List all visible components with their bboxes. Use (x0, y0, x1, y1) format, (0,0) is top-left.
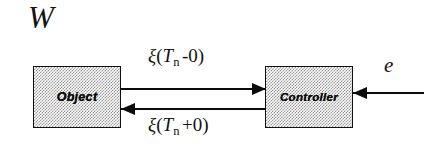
signal-label-feedback: ξ(Tn+0) (148, 115, 209, 137)
signal-feedback-close-paren: ) (202, 114, 208, 135)
arrowhead-left-icon (121, 103, 135, 115)
block-object: Object (33, 66, 121, 128)
signal-forward-variable: T (162, 45, 173, 66)
signal-forward-operator: -0 (182, 45, 198, 66)
wire-object-to-controller (121, 88, 266, 90)
arrowhead-right-icon (252, 83, 266, 95)
signal-forward-symbol: ξ (148, 45, 156, 66)
wire-controller-to-object (121, 108, 266, 110)
arrowhead-left-external-icon (353, 87, 367, 99)
system-label-w: W (28, 2, 54, 33)
block-controller-label: Controller (280, 91, 338, 103)
signal-label-external-input: e (384, 55, 393, 76)
block-controller: Controller (265, 66, 353, 128)
signal-label-forward: ξ(Tn-0) (148, 46, 204, 68)
block-object-label: Object (57, 90, 98, 104)
signal-feedback-subscript: n (173, 124, 179, 138)
signal-feedback-operator: +0 (182, 114, 202, 135)
signal-forward-close-paren: ) (198, 45, 204, 66)
signal-forward-subscript: n (173, 55, 179, 69)
signal-feedback-variable: T (162, 114, 173, 135)
signal-feedback-symbol: ξ (148, 114, 156, 135)
block-diagram-canvas: W Object Controller ξ(Tn-0) ξ(Tn+0) e (0, 0, 431, 154)
